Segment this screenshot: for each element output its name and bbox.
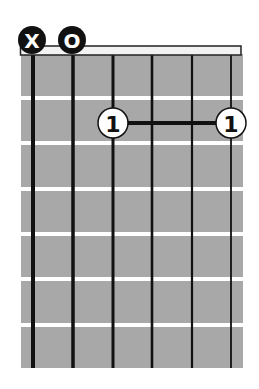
fret-line [21, 187, 243, 191]
fret-line [21, 96, 243, 100]
fret-line [21, 141, 243, 145]
chord-diagram: X O 1 1 [0, 0, 259, 389]
finger-dot: 1 [216, 108, 246, 138]
finger-number: 1 [223, 112, 238, 137]
open-marker: O [58, 26, 86, 54]
fretboard [21, 54, 243, 368]
open-marker-label: O [63, 29, 80, 53]
muted-marker: X [18, 26, 46, 54]
finger-dot: 1 [98, 108, 128, 138]
finger-number: 1 [105, 112, 120, 137]
nut [21, 46, 242, 55]
muted-marker-label: X [24, 29, 40, 53]
fret-line [21, 323, 243, 327]
fret-line [21, 277, 243, 281]
fret-line [21, 232, 243, 236]
